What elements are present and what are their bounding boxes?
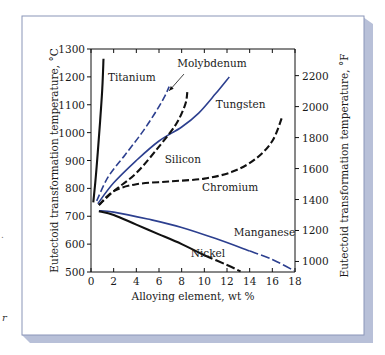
y-right-tick-label: 1600 — [302, 163, 329, 175]
x-tick-label: 14 — [243, 275, 257, 287]
x-tick-label: 2 — [110, 275, 117, 287]
y-tick-label: 500 — [65, 266, 85, 278]
y-tick-label: 600 — [65, 238, 85, 250]
y-right-tick-label: 2200 — [302, 70, 329, 82]
x-tick-label: 18 — [288, 275, 301, 287]
margin-fragment-1: . — [1, 230, 4, 240]
x-tick-label: 4 — [133, 275, 140, 287]
margin-fragment-2: r — [2, 312, 8, 323]
y-right-tick-label: 1400 — [302, 194, 329, 206]
nickel-label: Nickel — [191, 247, 226, 259]
chromium-label: Chromium — [202, 181, 258, 193]
x-tick-label: 16 — [266, 275, 280, 287]
y-tick-label: 1300 — [58, 43, 85, 55]
y-right-tick-label: 1800 — [302, 132, 329, 144]
eutectoid-temperature-chart: . r 024681012141618500600700800900100011… — [0, 0, 385, 355]
y-tick-label: 800 — [65, 182, 85, 194]
y-right-tick-label: 1200 — [302, 224, 329, 236]
molybdenum-label: Molybdenum — [177, 57, 247, 69]
x-tick-label: 12 — [220, 275, 233, 287]
x-axis-label: Alloying element, wt % — [131, 290, 255, 302]
y-tick-label: 900 — [65, 155, 85, 167]
y-tick-label: 1000 — [58, 127, 85, 139]
y-tick-label: 700 — [65, 210, 85, 222]
manganese-label: Manganese — [234, 226, 295, 238]
figure-stage: . r 024681012141618500600700800900100011… — [0, 0, 385, 355]
y-right-tick-label: 2000 — [302, 101, 329, 113]
y-axis-label-right: Eutectoid transformation temperature, °F — [338, 54, 350, 278]
silicon-label: Silicon — [165, 153, 201, 165]
y-tick-label: 1200 — [58, 71, 85, 83]
x-tick-label: 10 — [198, 275, 211, 287]
x-tick-label: 6 — [156, 275, 163, 287]
y-tick-label: 1100 — [58, 99, 85, 111]
titanium-label: Titanium — [108, 71, 156, 83]
y-axis-label-left: Eutectoid transformation temperature, °C — [48, 48, 60, 273]
y-right-tick-label: 1000 — [302, 255, 329, 267]
x-tick-label: 8 — [178, 275, 185, 287]
tungsten-label: Tungsten — [216, 98, 266, 110]
x-tick-label: 0 — [88, 275, 95, 287]
